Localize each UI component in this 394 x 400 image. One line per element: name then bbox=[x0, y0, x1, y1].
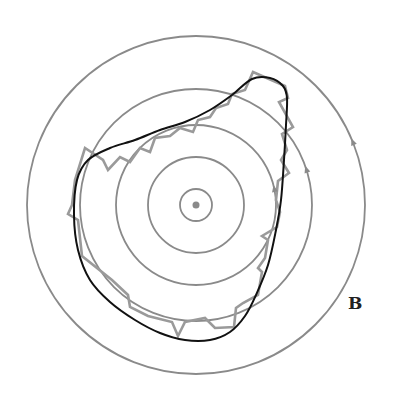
diagram-canvas: B bbox=[0, 0, 394, 400]
center-dot bbox=[193, 202, 200, 209]
arrow-up-icon bbox=[305, 166, 311, 174]
region-label-b: B bbox=[348, 293, 362, 313]
concentric-flux-diagram bbox=[0, 0, 394, 400]
arrow-up-icon bbox=[351, 138, 357, 146]
